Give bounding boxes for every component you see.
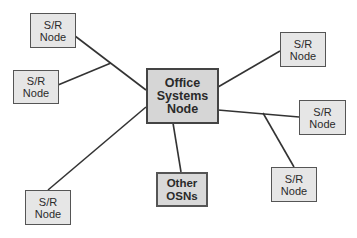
office-systems-node: Office Systems Node (146, 68, 219, 124)
node-label-line: S/R (285, 173, 303, 185)
edge-mid-left-to-junction (58, 63, 111, 85)
sr-node-top-left: S/R Node (30, 13, 76, 48)
node-label-line: S/R (44, 19, 62, 31)
node-label-line: Node (40, 31, 66, 43)
node-label-line: Other (167, 177, 198, 190)
node-label-line: Node (281, 185, 307, 197)
node-label-line: S/R (39, 196, 57, 208)
node-label-line: Node (35, 208, 61, 220)
node-label-line: S/R (27, 75, 45, 87)
edge-junction-to-bottom-right (263, 113, 294, 167)
edge-center-to-top-right (218, 51, 280, 87)
sr-node-top-right: S/R Node (280, 32, 326, 67)
other-osns-node: Other OSNs (156, 172, 208, 207)
node-label-line: Node (309, 118, 335, 130)
sr-node-bottom-right: S/R Node (271, 167, 317, 202)
node-label-line: Node (290, 50, 316, 62)
node-label-line: Systems (157, 90, 208, 103)
node-label-line: Node (167, 103, 198, 116)
edge-bottom-left-to-center (48, 107, 146, 190)
sr-node-bottom-left: S/R Node (25, 190, 71, 225)
node-label-line: Node (23, 87, 49, 99)
sr-node-mid-right: S/R Node (299, 100, 346, 135)
node-label-line: S/R (294, 38, 312, 50)
sr-node-mid-left: S/R Node (13, 70, 59, 104)
node-label-line: OSNs (166, 190, 197, 203)
edge-center-to-mid-right (218, 110, 299, 117)
node-label-line: S/R (313, 106, 331, 118)
node-label-line: Office (165, 77, 200, 90)
edge-center-to-other-osns (173, 123, 181, 172)
